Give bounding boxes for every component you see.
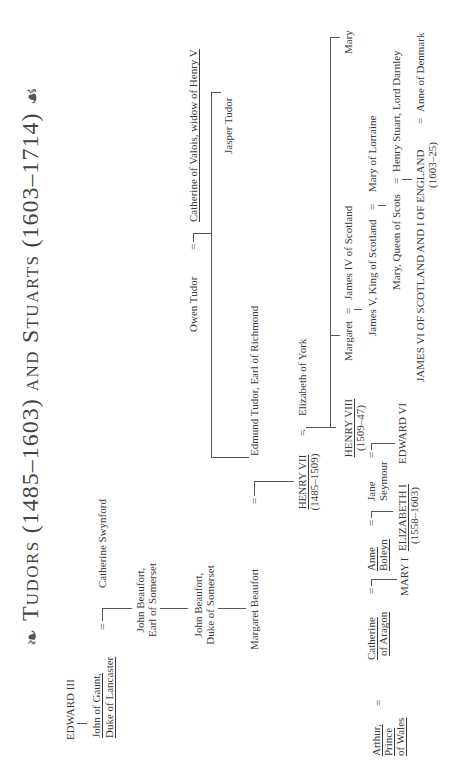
marriage-symbol: = — [248, 498, 260, 504]
family-tree-diagram: ❧ TUDORS (1485–1603) AND STUARTS (1603–1… — [0, 0, 472, 776]
person-anne-of-denmark: Anne of Denmark — [414, 33, 426, 112]
descent-line — [378, 205, 386, 206]
person-mary-queen-of-scots: Mary, Queen of Scots — [390, 194, 402, 290]
marriage-line — [193, 234, 194, 242]
descent-line — [354, 309, 362, 310]
descent-line — [371, 511, 393, 512]
marriage-symbol: = — [414, 118, 426, 124]
person-edward-iii: EDWARD III — [64, 679, 76, 740]
person-henry-stuart: Henry Stuart, Lord Darnley — [390, 50, 402, 172]
marriage-symbol: = — [342, 308, 354, 314]
descent-line — [402, 179, 412, 180]
marriage-line — [254, 482, 255, 496]
person-jane-seymour: Jane — [365, 481, 377, 501]
marriage-symbol: = — [296, 430, 308, 436]
person-john-of-gaunt: John of Gaunt, — [90, 673, 102, 738]
marriage-line — [102, 609, 103, 621]
marriage-symbol: = — [365, 520, 377, 526]
person-jasper-tudor: Jasper Tudor — [222, 97, 234, 154]
person-mary-tudor: Mary — [342, 30, 354, 54]
elizabeth-i-reign-dates: (1558–1603) — [408, 487, 420, 544]
person-edward-vi: EDWARD VI — [396, 403, 408, 464]
marriage-symbol: = — [390, 178, 402, 184]
person-james-v: James V, King of Scotland — [366, 219, 378, 336]
person-catherine-swynford: Catherine Swynford — [96, 499, 108, 588]
person-catherine-of-aragon-title: of Aragon — [377, 612, 389, 656]
marriage-line — [371, 444, 372, 450]
person-arthur: Arthur, — [370, 724, 382, 756]
descent-line — [306, 427, 330, 428]
marriage-symbol: = — [365, 452, 377, 458]
descent-line — [254, 481, 294, 482]
henry-viii-reign-dates: (1509–47) — [354, 398, 366, 458]
person-edmund-tudor: Edmund Tudor, Earl of Richmond — [248, 306, 260, 456]
person-james-vi: JAMES VI OF SCOTLAND AND I OF ENGLAND — [414, 150, 426, 382]
marriage-symbol: = — [366, 204, 378, 210]
descent-line — [193, 233, 211, 234]
person-anne-boleyn: Anne — [365, 547, 377, 571]
person-mary-of-lorraine: Mary of Lorraine — [366, 116, 378, 192]
henry-vii-reign-dates: (1485–1509) — [308, 450, 320, 514]
sibling-line — [330, 38, 331, 428]
descent-line — [371, 579, 397, 580]
marriage-symbol: = — [96, 624, 108, 630]
person-arthur-title-1: Prince — [382, 728, 394, 756]
person-james-iv: James IV of Scotland — [342, 206, 354, 300]
descent-line — [330, 335, 340, 336]
descent-line — [211, 457, 249, 458]
floral-ornament-icon: ☙ — [18, 86, 46, 105]
person-catherine-of-aragon: Catherine — [365, 617, 377, 660]
person-catherine-of-valois: Catherine of Valois, widow of Henry V — [187, 49, 199, 222]
diagram-title: ❧ TUDORS (1485–1603) AND STUARTS (1603–1… — [16, 16, 47, 716]
person-john-of-gaunt-title: Duke of Lancaster — [103, 657, 115, 738]
marriage-symbol: = — [187, 244, 199, 250]
descent-line — [102, 608, 132, 609]
sibling-line — [211, 93, 212, 458]
person-henry-vii: HENRY VII — [296, 450, 308, 514]
person-elizabeth-i: ELIZABETH I — [396, 484, 408, 551]
descent-line — [160, 608, 188, 609]
descent-line — [77, 723, 87, 724]
marriage-symbol: = — [365, 588, 377, 594]
person-owen-tudor: Owen Tudor — [187, 277, 199, 332]
person-john-beaufort-duke: John Beaufort, — [192, 560, 204, 650]
person-john-beaufort-duke-title: Duke of Somerset — [204, 560, 216, 650]
floral-ornament-icon: ❧ — [18, 628, 46, 646]
descent-line — [211, 92, 221, 93]
person-margaret-tudor: Margaret — [342, 321, 354, 361]
descent-line — [218, 608, 246, 609]
person-john-beaufort-earl: John Beaufort, — [134, 560, 146, 640]
person-margaret-beaufort: Margaret Beaufort — [248, 569, 260, 650]
descent-line — [330, 427, 336, 428]
person-henry-viii: HENRY VIII — [342, 398, 354, 458]
person-mary-i: MARY I — [398, 558, 410, 596]
spacer — [304, 430, 305, 431]
descent-line — [330, 37, 340, 38]
person-anne-boleyn-2: Boleyn — [377, 539, 389, 571]
person-elizabeth-of-york: Elizabeth of York — [296, 339, 308, 416]
person-arthur-title-2: of Wales — [394, 718, 406, 756]
marriage-line — [371, 512, 372, 518]
person-john-beaufort-earl-title: Earl of Somerset — [146, 560, 158, 640]
descent-line — [371, 443, 395, 444]
marriage-symbol: = — [372, 700, 384, 706]
james-vi-reign-dates: (1603–25) — [426, 142, 438, 188]
person-jane-seymour-2: Seymour — [377, 461, 389, 501]
marriage-line — [371, 580, 372, 586]
